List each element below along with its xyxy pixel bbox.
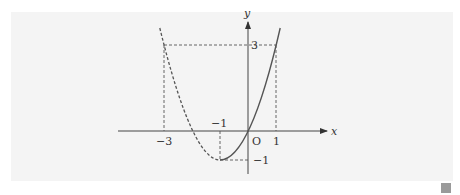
corner-marker [441,183,451,193]
parabola-graph: y x O −3 −1 1 3 −1 [0,0,460,195]
x-axis-label: x [331,125,338,138]
y-axis-label: y [243,7,251,20]
tick-y-3: 3 [251,39,258,52]
tick-x-neg1: −1 [211,117,227,130]
tick-y-neg1: −1 [253,154,269,167]
origin-label: O [252,135,261,148]
tick-x-neg3: −3 [156,135,172,148]
tick-x-1: 1 [273,135,280,148]
